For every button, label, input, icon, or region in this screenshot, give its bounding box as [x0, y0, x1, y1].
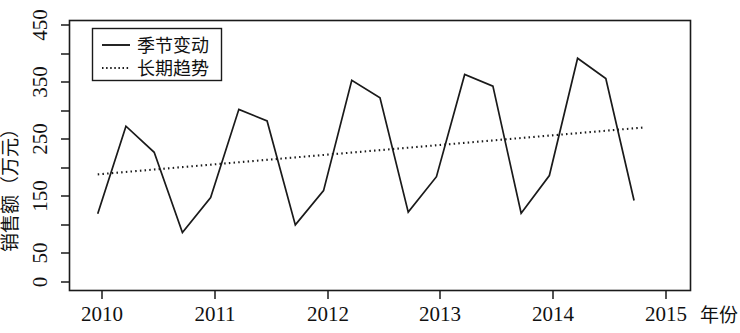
y-tick-label-0: 0	[28, 277, 52, 288]
y-tick-label-150: 150	[28, 180, 52, 212]
x-axis-ticks	[102, 291, 666, 300]
x-tick-label-2014: 2014	[532, 302, 575, 326]
y-tick-label-350: 350	[28, 66, 52, 98]
series-line-trend	[98, 127, 646, 174]
y-axis-tick-labels: 450 350 250 150 50 0	[28, 9, 52, 287]
y-tick-label-250: 250	[28, 123, 52, 155]
x-axis-tick-labels: 2010 2011 2012 2013 2014 2015	[81, 302, 687, 326]
y-tick-label-450: 450	[28, 9, 52, 41]
x-tick-label-2015: 2015	[645, 302, 687, 326]
y-axis-title: 销售额（万元）	[0, 119, 21, 252]
legend-label-seasonal: 季节变动	[137, 36, 209, 56]
x-tick-label-2011: 2011	[194, 302, 235, 326]
chart-legend: 季节变动 长期趋势	[93, 29, 222, 81]
chart-figure: 450 350 250 150 50 0 销售额（万元） 2010 2011 2…	[0, 0, 740, 333]
x-axis-title: 年份	[700, 305, 738, 326]
x-tick-label-2013: 2013	[419, 302, 461, 326]
x-tick-label-2010: 2010	[81, 302, 123, 326]
seasonal-sales-line-chart: 450 350 250 150 50 0 销售额（万元） 2010 2011 2…	[0, 0, 740, 333]
y-tick-label-50: 50	[28, 243, 52, 264]
series-line-seasonal	[98, 58, 634, 232]
x-tick-label-2012: 2012	[307, 302, 349, 326]
y-axis-ticks	[61, 25, 70, 282]
legend-label-trend: 长期趋势	[137, 59, 209, 79]
